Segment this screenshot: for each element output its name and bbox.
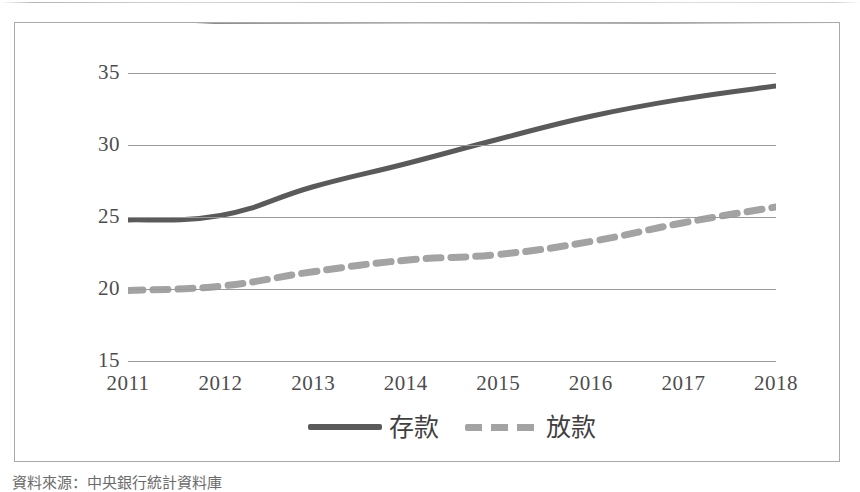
x-tick-label-2017: 2017	[638, 371, 728, 395]
y-axis-tick-labels: 3530252015	[48, 73, 120, 361]
x-tick-label-2012: 2012	[176, 371, 266, 395]
x-axis-tick-labels: 20112012201320142015201620172018	[128, 371, 776, 401]
series-line-loans	[128, 207, 776, 291]
y-tick-label-15: 15	[60, 350, 120, 371]
legend-swatch-loans-icon	[465, 424, 539, 431]
x-tick-label-2016: 2016	[546, 371, 636, 395]
x-tick-label-2015: 2015	[453, 371, 543, 395]
legend-label-deposits: 存款	[389, 414, 439, 441]
legend-entry-deposits[interactable]: 存款	[308, 414, 439, 441]
legend-label-loans: 放款	[546, 414, 596, 441]
y-tick-label-30: 30	[60, 134, 120, 155]
gridline-25	[128, 217, 776, 218]
x-tick-label-2014: 2014	[361, 371, 451, 395]
x-tick-label-2018: 2018	[731, 371, 821, 395]
legend-swatch-deposits-icon	[308, 424, 382, 430]
chart-legend: 存款放款	[128, 409, 776, 445]
chart-frame: 3530252015 20112012201320142015201620172…	[14, 22, 840, 462]
scan-artifact-smudge	[195, 23, 835, 24]
gridline-20	[128, 289, 776, 290]
y-tick-label-20: 20	[60, 278, 120, 299]
y-tick-label-25: 25	[60, 206, 120, 227]
gridline-35	[128, 73, 776, 74]
gridline-15	[128, 361, 776, 362]
plot-area	[128, 73, 776, 361]
scan-artifact-line	[0, 2, 860, 3]
x-tick-label-2011: 2011	[83, 371, 173, 395]
y-tick-label-35: 35	[60, 62, 120, 83]
source-caption: 資料來源：中央銀行統計資料庫	[12, 474, 222, 492]
x-tick-label-2013: 2013	[268, 371, 358, 395]
legend-entry-loans[interactable]: 放款	[465, 414, 596, 441]
series-line-deposits	[128, 86, 776, 220]
gridline-30	[128, 145, 776, 146]
